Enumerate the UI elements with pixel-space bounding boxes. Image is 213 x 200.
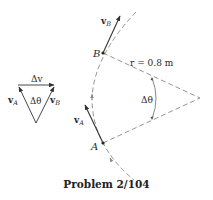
path-direction-arrow-low	[110, 158, 112, 162]
radius-label: r = 0.8 m	[130, 58, 174, 68]
figure-caption: Problem 2/104	[0, 178, 213, 190]
va-arrow	[85, 105, 103, 143]
point-a-label: A	[90, 141, 98, 152]
vb-label: vB	[100, 16, 111, 28]
diagram-canvas: Δv vA vB Δθ Δθ r = 0.8 m B vB A vA	[0, 0, 213, 200]
angle-arrowhead-bottom	[151, 117, 154, 121]
angle-label: Δθ	[141, 95, 153, 105]
delta-v-label: Δv	[31, 74, 43, 84]
angle-arrowhead-top	[151, 77, 154, 81]
triangle-vb-label: vB	[49, 95, 60, 107]
point-b-label: B	[92, 48, 100, 59]
circular-path-arc	[92, 12, 136, 180]
va-label: vA	[73, 115, 84, 127]
triangle-angle-label: Δθ	[30, 96, 41, 106]
velocity-triangle: Δv vA vB Δθ	[7, 74, 60, 123]
triangle-va-label: vA	[7, 95, 18, 107]
